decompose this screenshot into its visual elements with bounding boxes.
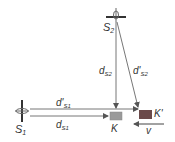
source-s1-icon [15,100,29,122]
label-d-prime-s2: d'S2 [133,65,148,77]
label-d-s1: dS1 [56,119,69,131]
diagram-canvas: S2 S1 d'S1 dS1 dS2 d'S2 K K' v [0,0,175,142]
label-k: K [111,123,119,134]
receiver-k-prime [139,110,152,119]
label-k-prime: K' [154,108,164,119]
label-s1: S1 [15,123,26,136]
label-d-prime-s1: d'S1 [56,97,71,109]
label-s2: S2 [103,21,114,34]
label-v: v [146,125,152,136]
source-s2-icon [106,8,126,22]
label-d-s2: dS2 [99,65,113,77]
receiver-k [110,112,122,120]
